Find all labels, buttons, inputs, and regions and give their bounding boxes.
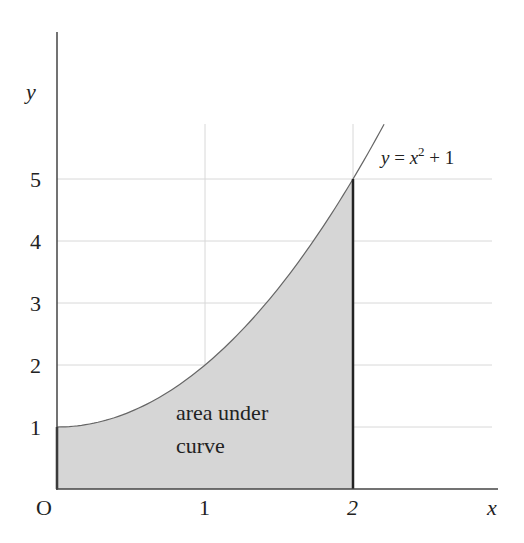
origin-label: O <box>36 495 52 520</box>
y-tick-label: 4 <box>30 229 41 254</box>
y-tick-label: 2 <box>30 353 41 378</box>
y-axis-label: y <box>24 79 36 104</box>
area-under-curve-chart: 12345 12 O x y area under curve y = x2 +… <box>0 0 524 543</box>
area-label-line2: curve <box>176 433 225 458</box>
y-tick-labels: 12345 <box>30 167 41 440</box>
y-tick-label: 5 <box>30 167 41 192</box>
y-tick-label: 3 <box>30 291 41 316</box>
y-tick-label: 1 <box>30 415 41 440</box>
x-axis-label: x <box>486 495 497 520</box>
curve-equation-label: y = x2 + 1 <box>379 144 454 168</box>
x-tick-labels: 12 <box>199 495 358 520</box>
x-tick-label: 1 <box>199 495 210 520</box>
x-tick-label: 2 <box>347 495 358 520</box>
area-label-line1: area under <box>176 400 269 425</box>
